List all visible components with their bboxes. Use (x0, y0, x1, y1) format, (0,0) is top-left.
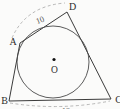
side-bc-length-label-clipped: 12 (62, 106, 71, 109)
quadrilateral-abcd-outline (9, 12, 111, 101)
side-bc-measure-arc (10, 101, 110, 107)
inscribed-circle (17, 26, 89, 98)
vertex-label-b: B (1, 95, 8, 106)
center-label-o: O (51, 65, 58, 75)
center-dot (52, 58, 55, 61)
side-ad-length-label: 10 (34, 14, 46, 26)
geometry-figure: O A B C D 10 12 (0, 0, 120, 109)
vertex-label-c: C (115, 94, 120, 105)
vertex-label-d: D (69, 1, 76, 12)
diagram-canvas: O A B C D 10 12 (0, 0, 120, 109)
vertex-label-a: A (9, 36, 17, 47)
